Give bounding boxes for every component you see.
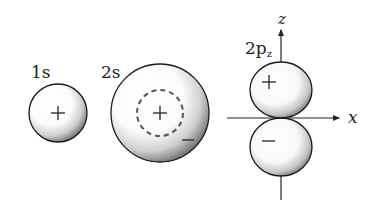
label-1s: 1s (31, 62, 51, 82)
label-2pz: 2pz (245, 38, 272, 59)
orbital-2s: 2s (101, 62, 209, 162)
label-2s: 2s (101, 62, 121, 82)
x-axis-label: x (348, 107, 358, 127)
z-axis-label: z (277, 10, 286, 28)
orbital-1s: 1s (29, 62, 87, 142)
orbital-2pz: 2pz z x (227, 10, 358, 200)
atomic-orbitals-diagram: 1s 2s 2pz z x (0, 0, 386, 212)
